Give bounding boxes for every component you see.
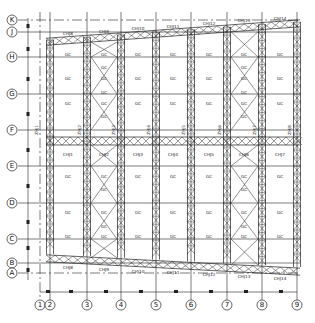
middle-truss-label: CHJ3 — [133, 152, 143, 157]
column-truss-label: ZHJ3 — [111, 125, 116, 135]
brace-label: GC — [241, 90, 247, 95]
dimension-tick — [209, 290, 213, 293]
truss-web — [253, 23, 262, 31]
brace-label: GC — [241, 210, 247, 215]
brace-label: GC — [101, 210, 107, 215]
truss-web — [226, 265, 235, 272]
brace-label: GC — [241, 187, 247, 192]
truss-web — [64, 256, 73, 263]
bottom-truss-label: CHJ8 — [63, 265, 73, 270]
top-truss-label: CHJ10 — [132, 26, 145, 31]
axis-label-4: 4 — [119, 301, 124, 309]
brace-label: GC — [206, 234, 212, 239]
dimension-tick — [139, 290, 143, 293]
truss-web — [154, 261, 163, 268]
dimension-tick — [279, 290, 283, 293]
axis-label-D: D — [9, 199, 14, 207]
brace-label: GC — [170, 174, 176, 179]
truss-web — [118, 259, 127, 266]
brace-label: GC — [206, 52, 212, 57]
truss-web — [100, 34, 109, 42]
column-truss-label: ZHJ1 — [34, 125, 39, 135]
truss-web — [154, 30, 163, 38]
brace-label: GC — [65, 52, 71, 57]
dimension-tick — [27, 112, 30, 116]
brace-label: GC — [101, 187, 107, 192]
truss-web — [163, 261, 172, 268]
truss-web — [127, 32, 136, 40]
truss-web — [262, 267, 271, 274]
top-truss-label: CHJ13 — [238, 18, 251, 23]
top-truss-label: CHJ9 — [99, 29, 109, 34]
axis-label-C: C — [10, 235, 15, 243]
dimension-tick — [27, 24, 30, 28]
truss-web — [208, 264, 217, 271]
bottom-truss-label: CHJ12 — [203, 272, 216, 277]
axis-label-8: 8 — [260, 301, 264, 309]
truss-web — [118, 32, 127, 40]
brace-label: GC — [65, 174, 71, 179]
middle-truss-label: CHJ2 — [99, 152, 109, 157]
truss-web — [199, 26, 208, 34]
brace-label: GC — [206, 101, 212, 106]
middle-truss-label: CHJ7 — [275, 152, 285, 157]
top-truss-label: CHJ12 — [203, 21, 216, 26]
dimension-tick — [174, 290, 178, 293]
brace-label: GC — [101, 90, 107, 95]
brace-label: GC — [101, 174, 107, 179]
brace-label: GC — [241, 101, 247, 106]
column-truss-label: ZHJ5 — [181, 125, 186, 135]
axis-label-B: B — [10, 259, 15, 267]
axis-label-1: 1 — [38, 301, 42, 309]
brace-label: GC — [101, 52, 107, 57]
brace-label: GC — [170, 76, 176, 81]
brace-label: GC — [277, 174, 283, 179]
truss-web — [46, 255, 55, 262]
brace-label: GC — [65, 76, 71, 81]
brace-label: GC — [241, 234, 247, 239]
brace-label: GC — [206, 76, 212, 81]
brace-label: GC — [170, 52, 176, 57]
truss-web — [100, 258, 109, 265]
dimension-tick — [27, 184, 30, 188]
brace-label: GC — [135, 210, 141, 215]
brace-label: GC — [101, 65, 107, 70]
top-truss-label: CHJ8 — [63, 31, 73, 36]
truss-web — [235, 24, 244, 32]
truss-web — [64, 36, 73, 44]
brace-label: GC — [101, 224, 107, 229]
brace-label: GC — [101, 114, 107, 119]
axis-label-2: 2 — [48, 301, 52, 309]
truss-web — [190, 263, 199, 270]
truss-web — [244, 266, 253, 273]
top-truss-label: CHJ14 — [274, 16, 287, 21]
truss-web — [55, 37, 64, 45]
axis-label-7: 7 — [225, 301, 229, 309]
top-truss-label: CHJ11 — [167, 24, 180, 29]
truss-web — [253, 266, 262, 273]
brace-label: GC — [101, 76, 107, 81]
truss-web — [271, 21, 280, 29]
brace-label: GC — [277, 210, 283, 215]
brace-label: GC — [135, 234, 141, 239]
dimension-tick — [69, 290, 73, 293]
truss-web — [55, 256, 64, 263]
truss-web — [217, 264, 226, 271]
axis-label-A: A — [10, 269, 15, 277]
brace-label: GC — [170, 210, 176, 215]
brace-label: GC — [241, 224, 247, 229]
dimension-tick — [27, 246, 30, 250]
axis-label-J: J — [10, 28, 13, 36]
truss-web — [163, 29, 172, 37]
structural-plan-drawing: CHJ8CHJ9CHJ10CHJ11CHJ12CHJ13CHJ14CHJ8CHJ… — [0, 0, 315, 323]
truss-web — [262, 22, 271, 30]
dimension-tick — [46, 290, 50, 293]
brace-label: GC — [241, 114, 247, 119]
bottom-truss-label: CHJ11 — [167, 270, 180, 275]
bottom-truss-label: CHJ14 — [274, 276, 287, 281]
truss-web — [109, 33, 118, 41]
truss-web — [73, 257, 82, 264]
column-truss-label: ZHJ8 — [287, 125, 292, 135]
dimension-tick — [27, 47, 30, 51]
middle-truss-label: CHJ5 — [204, 152, 214, 157]
